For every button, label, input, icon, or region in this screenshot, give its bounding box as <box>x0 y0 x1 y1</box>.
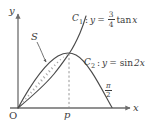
curve-c2-dependent: y <box>102 58 107 68</box>
curve-c1-argument: x <box>132 15 137 25</box>
curve-c1-equals: = <box>97 15 105 25</box>
region-label-s: S <box>31 32 38 42</box>
half-pi-numerator: π <box>105 83 112 91</box>
s-leader-line <box>37 42 46 62</box>
curve-c2-name: C2 <box>84 57 95 70</box>
curve-c1-tanx <box>18 16 86 108</box>
curve-label-c1: C1 : y = 3 4 tan x <box>72 11 137 28</box>
half-pi-denominator: 2 <box>105 90 111 99</box>
curve-c1-dependent: y <box>90 15 95 25</box>
curve-c1-separator: : <box>85 15 88 25</box>
curve-c1-function: tan <box>117 15 132 25</box>
origin-label: O <box>9 111 17 121</box>
x-axis-label: x <box>133 103 139 113</box>
curve-c2-function: sin <box>120 58 133 68</box>
curve-c1-coefficient: 3 4 <box>108 11 115 28</box>
tick-label-p: p <box>64 110 70 120</box>
tick-label-half-pi: π 2 <box>104 80 113 99</box>
shaded-region-s <box>18 53 70 108</box>
curve-c1-name: C1 <box>72 13 83 26</box>
curve-c2-argument: 2x <box>134 58 145 68</box>
curve-label-c2: C2 : y = sin 2x <box>84 57 145 70</box>
math-figure: y x O p S π 2 C1 : y = 3 4 tan x C2 : y … <box>0 0 148 130</box>
curve-c2-equals: = <box>109 58 117 68</box>
y-axis-label: y <box>9 6 15 16</box>
curve-c1-coef-num: 3 <box>108 11 115 19</box>
curve-c2-separator: : <box>97 58 100 68</box>
half-pi-fraction: π 2 <box>105 83 112 99</box>
curve-c1-coef-den: 4 <box>108 19 115 28</box>
